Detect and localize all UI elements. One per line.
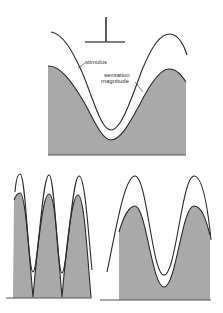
stimulus-label: stimulus: [85, 59, 107, 65]
br-sensation-area: [119, 206, 210, 300]
bottom-right-panel: [100, 176, 211, 300]
sensation-magnitude-label: sensation magnitude: [101, 72, 130, 84]
bottom-left-panel: [6, 174, 92, 298]
sensation-label-line2: magnitude: [101, 78, 130, 84]
probe-t-icon: [85, 17, 125, 42]
top-panel: [48, 17, 187, 155]
sensation-diagram: [0, 0, 223, 313]
